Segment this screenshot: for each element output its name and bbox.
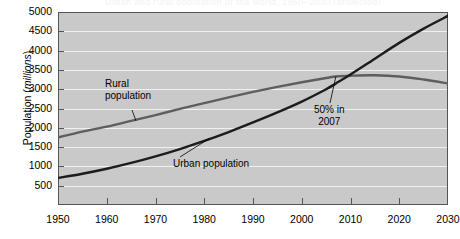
annotation-line: population	[105, 90, 151, 102]
annotation-line: Urban population	[173, 158, 249, 170]
series-layer	[0, 0, 460, 239]
annotation-line: 2007	[314, 116, 345, 128]
chart-figure: Urban and rural population of the world,…	[0, 0, 460, 239]
annotation-line: 50% in	[314, 104, 345, 116]
annotation-rural-label: Ruralpopulation	[105, 78, 151, 101]
annotation-urban-label: Urban population	[173, 158, 249, 170]
annotation-line: Rural	[105, 78, 151, 90]
annotation-leader-line	[330, 76, 336, 103]
annotation-crossover-label: 50% in2007	[314, 104, 345, 127]
